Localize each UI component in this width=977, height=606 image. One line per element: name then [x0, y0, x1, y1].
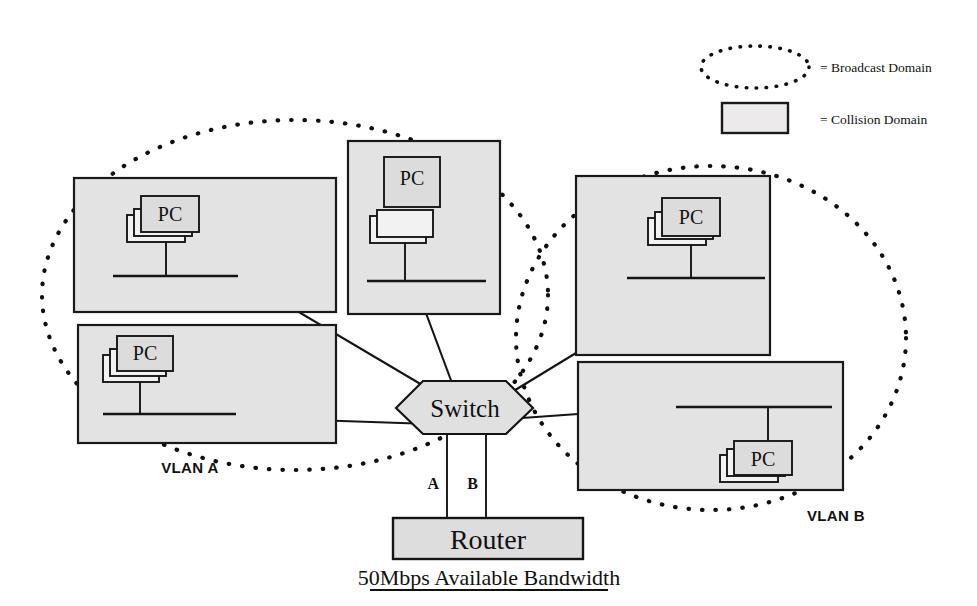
collision-domain-top-center: PC [348, 141, 500, 314]
switch-port-a-label: A [427, 475, 439, 492]
vlan-a-label: VLAN A [161, 459, 219, 476]
pc-label: PC [679, 206, 703, 228]
pc-icon-middle-layer [377, 210, 433, 237]
router-label: Router [450, 524, 527, 555]
cd-top-left-box [74, 178, 336, 312]
router-device[interactable]: Router [393, 518, 583, 559]
legend-broadcast-label: = Broadcast Domain [820, 60, 932, 75]
figure-caption: 50Mbps Available Bandwidth [358, 565, 620, 590]
vlan-b-label: VLAN B [807, 507, 865, 524]
cd-bottom-right-box [578, 362, 843, 490]
switch-router-links: A B [427, 434, 486, 518]
collision-domain-top-right: PC [576, 176, 770, 355]
pc-label: PC [751, 448, 775, 470]
switch-device[interactable]: Switch [396, 381, 533, 434]
switch-label: Switch [430, 395, 500, 422]
collision-domain-bottom-left: PC [78, 325, 336, 443]
pc-label: PC [158, 203, 182, 225]
legend-item-broadcast-domain: = Broadcast Domain [701, 46, 932, 88]
collision-domain-bottom-right: PC [578, 362, 843, 490]
network-diagram-figure: PC PC PC [0, 0, 977, 606]
diagram-canvas: PC PC PC [0, 0, 977, 606]
collision-domain-rect-icon [722, 103, 788, 133]
switch-port-b-label: B [467, 475, 478, 492]
collision-domain-top-left: PC [74, 178, 336, 312]
caption-text: 50Mbps Available Bandwidth [358, 565, 620, 590]
legend: = Broadcast Domain = Collision Domain [701, 46, 932, 133]
legend-item-collision-domain: = Collision Domain [722, 103, 928, 133]
broadcast-domain-ellipse-icon [701, 46, 809, 88]
legend-collision-label: = Collision Domain [820, 112, 928, 127]
pc-label: PC [133, 342, 157, 364]
pc-label: PC [400, 167, 424, 189]
